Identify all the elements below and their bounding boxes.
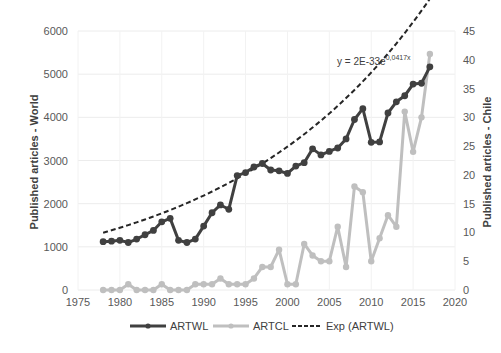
artcl-point bbox=[385, 212, 391, 218]
x-tick-label: 2000 bbox=[275, 296, 299, 308]
y-tick-label: 3000 bbox=[44, 155, 68, 167]
equation-base: y = 2E-33e bbox=[337, 56, 386, 67]
artcl-point bbox=[217, 275, 223, 281]
x-tick-label: 1975 bbox=[66, 296, 90, 308]
series-artcl bbox=[100, 51, 433, 293]
y-axis-left-ticks: 0100020003000400050006000 bbox=[44, 25, 68, 296]
artcl-point bbox=[133, 287, 139, 293]
artwl-point bbox=[426, 63, 433, 70]
x-tick-label: 1980 bbox=[108, 296, 132, 308]
exp-trendline bbox=[103, 0, 430, 233]
artwl-point bbox=[359, 105, 366, 112]
artwl-point bbox=[225, 206, 232, 213]
artwl-point bbox=[393, 98, 400, 105]
artwl-point bbox=[284, 170, 291, 177]
legend-item-artcl: ARTCL bbox=[213, 320, 289, 332]
artwl-point bbox=[125, 239, 132, 246]
artwl-point bbox=[108, 238, 115, 245]
x-tick-label: 1990 bbox=[191, 296, 215, 308]
artcl-point bbox=[368, 258, 374, 264]
artwl-point bbox=[292, 163, 299, 170]
artwl-point bbox=[410, 81, 417, 88]
x-axis-ticks: 1975198019851990199520002005201020152020 bbox=[66, 296, 467, 308]
y-right-tick-label: 15 bbox=[463, 198, 475, 210]
artwl-point bbox=[100, 238, 107, 245]
trendline-equation: y = 2E-33e0,0417x bbox=[337, 54, 411, 67]
x-tick-label: 1995 bbox=[233, 296, 257, 308]
artcl-line bbox=[103, 54, 430, 290]
artcl-point bbox=[100, 287, 106, 293]
artwl-point bbox=[326, 148, 333, 155]
artcl-point bbox=[117, 287, 123, 293]
artcl-point bbox=[150, 287, 156, 293]
legend-exp-label: Exp (ARTWL) bbox=[326, 320, 394, 332]
legend-artwl-label: ARTWL bbox=[170, 320, 208, 332]
artwl-point bbox=[385, 110, 392, 117]
artcl-point bbox=[167, 287, 173, 293]
y-axis-left-title: Published articles - World bbox=[28, 95, 40, 230]
artwl-point bbox=[133, 236, 140, 243]
y-right-tick-label: 20 bbox=[463, 169, 475, 181]
artcl-point bbox=[267, 264, 273, 270]
artwl-point bbox=[418, 80, 425, 87]
artcl-point bbox=[209, 281, 215, 287]
artwl-point bbox=[343, 136, 350, 143]
artcl-point bbox=[125, 281, 131, 287]
artcl-point bbox=[200, 281, 206, 287]
y-right-tick-label: 10 bbox=[463, 226, 475, 238]
artwl-point bbox=[376, 139, 383, 146]
artcl-point bbox=[259, 264, 265, 270]
artcl-point bbox=[309, 252, 315, 258]
artcl-point bbox=[284, 281, 290, 287]
artcl-point bbox=[376, 235, 382, 241]
artcl-point bbox=[293, 281, 299, 287]
artcl-point bbox=[326, 258, 332, 264]
artcl-point bbox=[251, 275, 257, 281]
legend: ARTWL ARTCL Exp (ARTWL) bbox=[130, 320, 394, 332]
artcl-point bbox=[301, 241, 307, 247]
artwl-point bbox=[309, 145, 316, 152]
artwl-point bbox=[276, 167, 283, 174]
artwl-point bbox=[167, 215, 174, 222]
artcl-point bbox=[427, 51, 433, 57]
artcl-point bbox=[360, 189, 366, 195]
y-right-tick-label: 40 bbox=[463, 54, 475, 66]
legend-artcl-marker-icon bbox=[228, 323, 233, 328]
artwl-point bbox=[192, 236, 199, 243]
artcl-point bbox=[226, 281, 232, 287]
y-tick-label: 2000 bbox=[44, 198, 68, 210]
artcl-point bbox=[142, 287, 148, 293]
artwl-point bbox=[259, 160, 266, 167]
x-tick-label: 2005 bbox=[317, 296, 341, 308]
artwl-point bbox=[200, 223, 207, 230]
artcl-point bbox=[410, 149, 416, 155]
equation-exponent: 0,0417x bbox=[386, 54, 411, 61]
artcl-point bbox=[276, 247, 282, 253]
x-tick-label: 2020 bbox=[443, 296, 467, 308]
y-right-tick-label: 35 bbox=[463, 83, 475, 95]
artcl-point bbox=[175, 287, 181, 293]
legend-item-exp: Exp (ARTWL) bbox=[292, 320, 394, 332]
artcl-point bbox=[234, 281, 240, 287]
artwl-point bbox=[401, 92, 408, 99]
chart: 1975198019851990199520002005201020152020… bbox=[0, 0, 501, 353]
artwl-point bbox=[184, 239, 191, 246]
y-axis-right-title: Published articles - Chile bbox=[481, 97, 493, 228]
y-axis-right-ticks: 051015202530354045 bbox=[463, 25, 475, 296]
x-tick-label: 1985 bbox=[150, 296, 174, 308]
artcl-point bbox=[192, 281, 198, 287]
artwl-point bbox=[142, 231, 149, 238]
artcl-point bbox=[159, 281, 165, 287]
y-tick-label: 5000 bbox=[44, 68, 68, 80]
y-tick-label: 4000 bbox=[44, 111, 68, 123]
artwl-point bbox=[334, 145, 341, 152]
y-tick-label: 0 bbox=[62, 284, 68, 296]
legend-item-artwl: ARTWL bbox=[130, 320, 208, 332]
artwl-point bbox=[242, 169, 249, 176]
y-tick-label: 6000 bbox=[44, 25, 68, 37]
y-right-tick-label: 0 bbox=[463, 284, 469, 296]
artwl-point bbox=[351, 116, 358, 123]
artwl-point bbox=[234, 172, 241, 179]
x-tick-label: 2010 bbox=[359, 296, 383, 308]
y-right-tick-label: 30 bbox=[463, 111, 475, 123]
